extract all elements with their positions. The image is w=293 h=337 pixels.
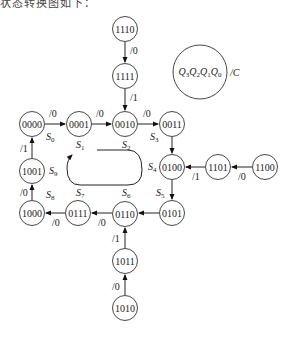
legend: Q3Q2Q1Q0 /C: [173, 45, 240, 99]
transition-0010-0011: /0: [138, 108, 158, 124]
svg-text:0110: 0110: [115, 209, 135, 220]
transition-1100-1101: /0: [232, 167, 252, 182]
state-0000: 0000: [20, 112, 45, 137]
svg-text:S7: S7: [76, 187, 85, 200]
svg-text:/1: /1: [112, 233, 120, 244]
svg-text:/1: /1: [20, 143, 28, 154]
state-0101: 0101: [160, 201, 185, 226]
state-0111: 0111: [66, 201, 91, 226]
svg-text:/0: /0: [98, 217, 106, 228]
state-1110: 1110: [113, 17, 138, 42]
state-1000: 1000: [20, 201, 45, 226]
transition-1111-0010: /1: [125, 89, 138, 110]
svg-text:/0: /0: [49, 108, 57, 119]
svg-text:0001: 0001: [69, 119, 89, 130]
svg-text:1001: 1001: [22, 166, 42, 177]
svg-text:0010: 0010: [115, 119, 135, 130]
svg-text:/0: /0: [52, 217, 60, 228]
state-1010: 1010: [113, 296, 138, 321]
transition-0001-0010: /0: [92, 108, 111, 124]
svg-text:S1: S1: [76, 139, 85, 152]
legend-output: /C: [229, 67, 240, 78]
svg-text:0011: 0011: [162, 119, 182, 130]
svg-text:/0: /0: [143, 108, 151, 119]
svg-text:/0: /0: [130, 45, 138, 56]
state-1011: 1011: [113, 249, 138, 274]
svg-text:0000: 0000: [22, 119, 42, 130]
svg-text:/0: /0: [96, 108, 104, 119]
svg-text:S9: S9: [49, 165, 58, 178]
transition-1010-1011: /0: [112, 275, 125, 295]
svg-text:/1: /1: [130, 92, 138, 103]
transition-0000-0001: /0: [45, 108, 65, 124]
state-1001: 1001: [20, 159, 45, 184]
svg-text:S6: S6: [122, 187, 131, 200]
state-1101: 1101: [206, 155, 231, 180]
state-0001: 0001: [67, 112, 92, 137]
svg-text:0111: 0111: [68, 208, 87, 219]
transition-0110-0111: /0: [92, 213, 112, 228]
state-0011: 0011: [160, 112, 185, 137]
svg-text:0101: 0101: [162, 208, 182, 219]
svg-text:/0: /0: [238, 171, 246, 182]
svg-text:S5: S5: [156, 187, 165, 200]
state-0010: 0010: [113, 112, 138, 137]
svg-text:0100: 0100: [162, 162, 182, 173]
state-diagram: /0 /1 /0 /0 /0 /1 /0 /0 /0: [0, 0, 293, 337]
svg-text:S8: S8: [46, 189, 55, 202]
svg-text:1000: 1000: [22, 208, 42, 219]
state-0110: 0110: [113, 202, 138, 227]
svg-text:/1: /1: [192, 171, 200, 182]
cycle-direction-arrow: [67, 150, 142, 185]
transition-1000-1001: /0: [20, 185, 32, 200]
svg-text:1110: 1110: [115, 24, 134, 35]
svg-text:1010: 1010: [115, 303, 135, 314]
state-names: S0 S1 S2 S3 S4 S5 S6 S7 S8 S9: [46, 131, 165, 202]
svg-text:1101: 1101: [208, 162, 228, 173]
state-1100: 1100: [253, 155, 278, 180]
transition-1011-0110: /1: [112, 228, 125, 248]
transition-1001-0000: /1: [20, 138, 32, 158]
transition-0111-1000: /0: [46, 213, 65, 228]
svg-text:/0: /0: [112, 281, 120, 292]
transition-1101-0100: /1: [186, 167, 205, 182]
svg-text:S4: S4: [148, 161, 157, 174]
svg-text:S0: S0: [46, 131, 55, 144]
state-0100: 0100: [160, 155, 185, 180]
svg-text:/0: /0: [20, 187, 28, 198]
transition-1110-1111: /0: [125, 42, 138, 62]
svg-text:1011: 1011: [115, 256, 135, 267]
svg-text:1100: 1100: [255, 162, 275, 173]
svg-text:S3: S3: [150, 131, 159, 144]
svg-text:1111: 1111: [116, 71, 135, 82]
state-1111: 1111: [113, 64, 138, 89]
